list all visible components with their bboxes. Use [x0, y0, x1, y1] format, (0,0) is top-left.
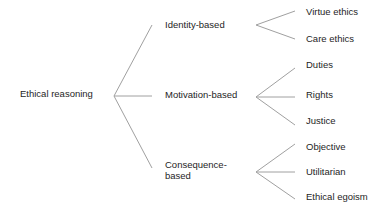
leaf-utilitarian: Utilitarian [306, 166, 346, 177]
leaf-objective: Objective [306, 141, 346, 152]
category-consequence: Consequence- based [165, 159, 227, 181]
category-consequence-line1: Consequence- [165, 159, 227, 170]
leaf-care-ethics: Care ethics [306, 33, 354, 44]
category-consequence-line2: based [165, 170, 227, 181]
category-motivation: Motivation-based [165, 89, 237, 100]
leaf-rights: Rights [306, 89, 333, 100]
leaf-justice: Justice [306, 115, 336, 126]
leaf-duties: Duties [306, 59, 333, 70]
category-identity: Identity-based [165, 19, 225, 30]
root-node: Ethical reasoning [20, 88, 93, 99]
leaf-ethical-egoism: Ethical egoism [306, 191, 368, 202]
leaf-virtue-ethics: Virtue ethics [306, 6, 358, 17]
